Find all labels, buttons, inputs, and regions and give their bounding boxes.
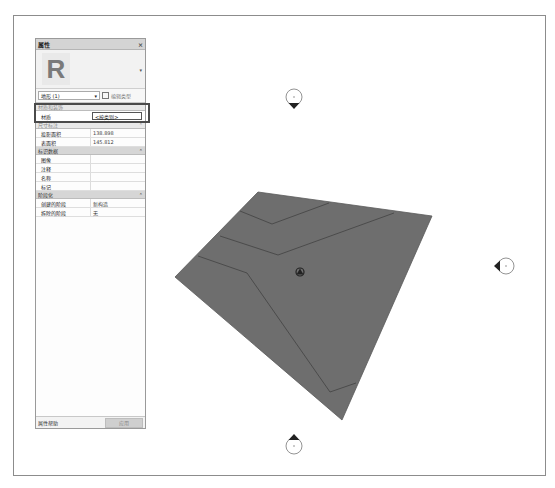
section-dimensions[interactable]: 尺寸标注 ⌃	[36, 121, 145, 129]
property-key: 拆除的阶段	[36, 208, 91, 216]
property-row[interactable]: 注释	[36, 164, 145, 173]
apply-button[interactable]: 应用	[105, 418, 143, 428]
property-row: 投影面积 138.898	[36, 129, 145, 138]
section-materials[interactable]: 材质和装饰	[36, 103, 145, 111]
property-value[interactable]	[91, 182, 145, 190]
property-key: 标记	[36, 182, 91, 190]
section-label: 材质和装饰	[38, 103, 63, 110]
property-row-material: 材质 <按类别>	[36, 111, 145, 121]
collapse-icon[interactable]: ⌃	[139, 192, 143, 198]
property-key: 名称	[36, 173, 91, 181]
properties-panel-footer: 属性帮助 应用	[36, 416, 145, 428]
edit-type-button[interactable]: 编辑类型	[102, 92, 131, 99]
property-key: 创建的阶段	[36, 199, 91, 207]
property-row[interactable]: 图像	[36, 155, 145, 164]
edit-type-label: 编辑类型	[111, 92, 131, 99]
collapse-icon[interactable]: ⌃	[139, 148, 143, 154]
property-row[interactable]: 拆除的阶段 无	[36, 208, 145, 217]
property-key: 材质	[36, 111, 90, 121]
property-value[interactable]: 新构造	[91, 199, 145, 207]
properties-help-link[interactable]: 属性帮助	[38, 419, 58, 426]
type-selector-row: 地形 (1) ▾ 编辑类型	[36, 89, 145, 103]
section-label: 标识数据	[38, 147, 58, 154]
property-row: 表面积 145.812	[36, 138, 145, 147]
type-preview-dropdown-icon[interactable]: ▾	[139, 67, 142, 73]
property-row[interactable]: 标记	[36, 182, 145, 191]
property-key: 注释	[36, 164, 91, 172]
property-key: 图像	[36, 155, 91, 163]
property-key: 投影面积	[36, 129, 91, 137]
section-label: 尺寸标注	[38, 121, 58, 128]
property-value[interactable]	[91, 173, 145, 181]
section-phasing[interactable]: 阶段化 ⌃	[36, 191, 145, 199]
section-identity-data[interactable]: 标识数据 ⌃	[36, 147, 145, 155]
revit-logo-icon: R	[42, 53, 70, 85]
property-row[interactable]: 创建的阶段 新构造	[36, 199, 145, 208]
property-value[interactable]	[91, 164, 145, 172]
type-preview[interactable]: R ▾	[36, 50, 145, 89]
chevron-down-icon: ▾	[94, 93, 97, 99]
property-value: 138.898	[91, 129, 145, 137]
instance-filter-label: 地形 (1)	[41, 92, 60, 99]
property-key: 表面积	[36, 138, 91, 146]
instance-filter-select[interactable]: 地形 (1) ▾	[38, 91, 100, 100]
property-row[interactable]: 名称	[36, 173, 145, 182]
section-label: 阶段化	[38, 191, 53, 198]
properties-panel-header[interactable]: 属性 ×	[36, 39, 145, 50]
properties-panel: 属性 × R ▾ 地形 (1) ▾ 编辑类型 材质和装饰 材质 <按类别> 尺寸…	[35, 38, 146, 429]
close-icon[interactable]: ×	[138, 41, 143, 48]
property-value[interactable]: 无	[91, 208, 145, 216]
collapse-icon[interactable]: ⌃	[139, 122, 143, 128]
material-value-field[interactable]: <按类别>	[92, 112, 142, 120]
properties-panel-title: 属性	[38, 40, 50, 49]
property-value[interactable]	[91, 155, 145, 163]
edit-type-icon	[102, 92, 109, 99]
property-value: 145.812	[91, 138, 145, 146]
